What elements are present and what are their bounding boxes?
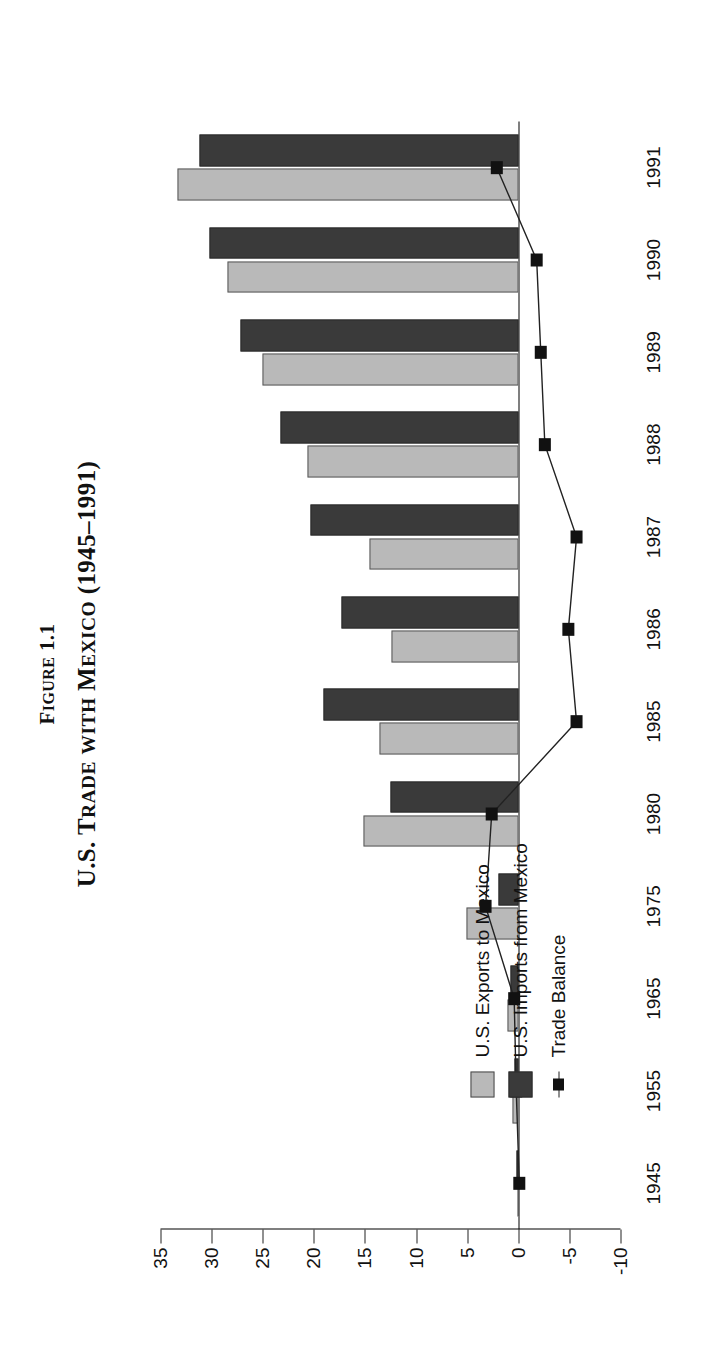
category-label-1985: 1985 — [642, 700, 664, 742]
bar-imp-1986 — [341, 596, 518, 628]
balance-marker-1989 — [534, 345, 546, 358]
value-tick-label: -5 — [558, 1247, 580, 1264]
bar-exp-1991 — [177, 168, 517, 200]
balance-marker-1985 — [570, 715, 582, 728]
bar-exp-1989 — [262, 353, 518, 385]
value-tick-label: 10 — [405, 1247, 427, 1268]
value-tick-label: -10 — [609, 1247, 631, 1274]
balance-marker-1988 — [538, 438, 550, 451]
legend-line-marker-icon — [546, 1071, 570, 1097]
bar-imp-1987 — [310, 504, 518, 536]
value-tick — [518, 1229, 519, 1243]
bar-exp-1985 — [379, 722, 518, 754]
bar-imp-1988 — [280, 411, 518, 443]
legend-label: Trade Balance — [547, 934, 569, 1057]
chart-legend: U.S. Exports to MexicoU.S. Imports from … — [470, 843, 584, 1097]
category-label-1955: 1955 — [642, 1069, 664, 1111]
category-label-1975: 1975 — [642, 885, 664, 927]
bar-exp-1986 — [391, 630, 518, 662]
category-label-1945: 1945 — [642, 1162, 664, 1204]
category-label-1986: 1986 — [642, 608, 664, 650]
legend-swatch-icon — [470, 1071, 494, 1097]
value-tick — [416, 1229, 417, 1243]
value-tick — [313, 1229, 314, 1243]
value-tick — [211, 1229, 212, 1243]
balance-marker-1987 — [570, 530, 582, 543]
value-tick-label: 30 — [200, 1247, 222, 1268]
value-axis-line — [160, 1228, 620, 1229]
legend-swatch-icon — [508, 1071, 532, 1097]
balance-marker-1986 — [562, 622, 574, 635]
category-label-1980: 1980 — [642, 792, 664, 834]
value-tick-label: 15 — [353, 1247, 375, 1268]
figure-page: FIGURE 1.1 U.S. TRADE WITH MEXICO (1945–… — [0, 0, 722, 1347]
value-tick-label: 35 — [149, 1247, 171, 1268]
legend-item-2: Trade Balance — [546, 843, 570, 1097]
bar-imp-1980 — [390, 781, 518, 813]
value-tick — [620, 1229, 621, 1243]
bar-imp-1991 — [199, 134, 518, 166]
figure-title: U.S. TRADE WITH MEXICO (1945–1991) — [72, 0, 100, 1347]
bar-exp-1990 — [227, 261, 517, 293]
value-tick-label: 20 — [302, 1247, 324, 1268]
bar-exp-1980 — [363, 815, 517, 847]
bar-exp-1987 — [369, 538, 518, 570]
value-tick — [364, 1229, 365, 1243]
bar-imp-1990 — [209, 227, 518, 259]
bar-exp-1945 — [517, 1184, 519, 1216]
legend-label: U.S. Imports from Mexico — [509, 843, 531, 1057]
value-tick — [467, 1229, 468, 1243]
legend-item-0: U.S. Exports to Mexico — [470, 843, 494, 1097]
bar-imp-1989 — [240, 319, 518, 351]
category-label-1965: 1965 — [642, 977, 664, 1019]
legend-item-1: U.S. Imports from Mexico — [508, 843, 532, 1097]
bar-exp-1988 — [307, 445, 518, 477]
value-tick-label: 5 — [456, 1247, 478, 1258]
value-tick — [160, 1229, 161, 1243]
category-label-1987: 1987 — [642, 515, 664, 557]
bar-imp-1945 — [516, 1150, 518, 1182]
category-label-1988: 1988 — [642, 423, 664, 465]
bar-imp-1985 — [323, 688, 518, 720]
rotated-figure-stage: FIGURE 1.1 U.S. TRADE WITH MEXICO (1945–… — [0, 0, 722, 1347]
value-tick — [569, 1229, 570, 1243]
balance-marker-1990 — [530, 253, 542, 266]
legend-label: U.S. Exports to Mexico — [471, 864, 493, 1057]
category-label-1991: 1991 — [642, 146, 664, 188]
value-tick-label: 0 — [507, 1247, 529, 1258]
value-tick-label: 25 — [251, 1247, 273, 1268]
category-label-1990: 1990 — [642, 238, 664, 280]
value-tick — [262, 1229, 263, 1243]
category-label-1989: 1989 — [642, 331, 664, 373]
figure-number: FIGURE 1.1 — [34, 0, 59, 1347]
